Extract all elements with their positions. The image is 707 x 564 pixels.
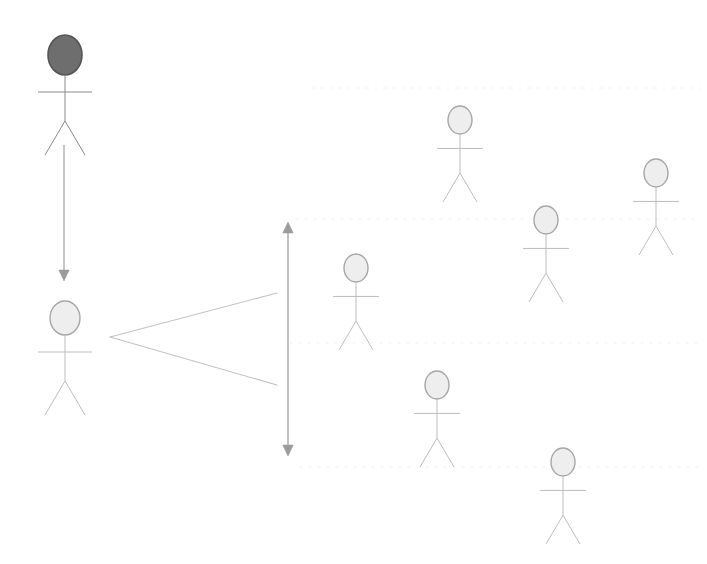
actor-right-far-head <box>644 159 668 187</box>
vertical-span-arrow-head-top <box>283 222 293 233</box>
actor-center-lower-leg-left <box>420 438 437 467</box>
actor-primary-dark-head <box>48 35 82 75</box>
actor-right-top-head <box>448 106 472 134</box>
actor-bottom-right-leg-right <box>563 515 580 544</box>
actor-center-upper-leg-right <box>356 321 373 350</box>
actor-center-lower-head <box>425 371 449 399</box>
actor-center-upper-leg-left <box>339 321 356 350</box>
actor-primary-dark-leg-left <box>45 121 65 155</box>
actor-secondary-left-leg-right <box>65 381 85 415</box>
actor-right-far-leg-right <box>656 226 673 255</box>
diagram-canvas <box>0 0 707 564</box>
actor-bottom-right <box>540 448 586 544</box>
actor-right-top <box>437 106 483 202</box>
actor-right-middle-head <box>534 206 558 234</box>
actor-right-far <box>633 159 679 255</box>
actor-center-lower <box>414 371 460 467</box>
connectors-layer <box>59 145 293 456</box>
fan-branch-connector-lower-branch <box>110 337 277 385</box>
vertical-span-arrow-head-bottom <box>283 445 293 456</box>
vertical-flow-arrow-head <box>59 270 69 281</box>
actor-right-middle-leg-right <box>546 273 563 302</box>
actor-primary-dark-leg-right <box>65 121 85 155</box>
actors-layer <box>38 35 679 544</box>
actor-bottom-right-head <box>551 448 575 476</box>
actor-center-lower-leg-right <box>437 438 454 467</box>
fan-branch-connector-upper-branch <box>110 293 277 337</box>
actor-secondary-left <box>38 301 92 415</box>
actor-center-upper <box>333 254 379 350</box>
actor-primary-dark <box>38 35 92 155</box>
actor-right-middle-leg-left <box>529 273 546 302</box>
actor-right-top-leg-left <box>443 173 460 202</box>
actor-diagram <box>0 0 707 564</box>
actor-right-far-leg-left <box>639 226 656 255</box>
actor-secondary-left-head <box>50 301 80 335</box>
actor-secondary-left-leg-left <box>45 381 65 415</box>
actor-bottom-right-leg-left <box>546 515 563 544</box>
actor-right-middle <box>523 206 569 302</box>
actor-center-upper-head <box>344 254 368 282</box>
actor-right-top-leg-right <box>460 173 477 202</box>
